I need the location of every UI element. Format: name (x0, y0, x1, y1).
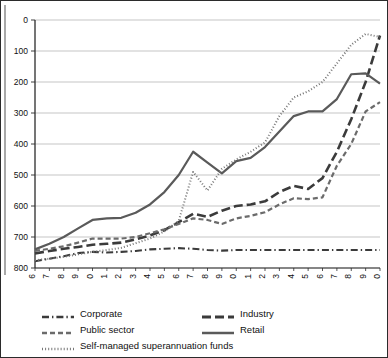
ytick-label-500: 300 (14, 108, 28, 118)
xtick-label-1997: 1997 (41, 274, 51, 279)
xtick-label-2000: 2000 (85, 274, 95, 279)
xtick-label-2013: 2013 (271, 274, 281, 279)
legend-label-retail: Retail (240, 324, 264, 335)
ytick-label-400: 400 (14, 139, 28, 149)
plot-area: 8007006005004003002001000199619971998199… (1, 1, 388, 279)
series-line-public-sector (35, 102, 380, 251)
xtick-label-1998: 1998 (56, 274, 66, 279)
legend-label-industry: Industry (240, 308, 274, 319)
legend-item-corporate[interactable]: Corporate (41, 305, 201, 321)
ytick-label-0: 800 (14, 263, 28, 273)
ytick-label-300: 500 (14, 170, 28, 180)
xtick-label-2011: 2011 (243, 274, 253, 279)
xtick-label-2008: 2008 (200, 274, 210, 279)
legend-item-retail[interactable]: Retail (201, 321, 371, 337)
xtick-label-1996: 1996 (27, 274, 37, 279)
legend-row-2: Public sector Retail (1, 321, 388, 337)
dotted-line-icon (41, 340, 75, 350)
legend-row-3: Self-managed superannuation funds (1, 337, 388, 353)
ytick-label-200: 600 (14, 201, 28, 211)
xtick-label-2017: 2017 (329, 274, 339, 279)
ytick-label-600: 200 (14, 77, 28, 87)
series-line-self-managed-superannuation-funds (35, 34, 380, 260)
legend-label-smsf: Self-managed superannuation funds (80, 340, 233, 351)
legend-row-1: Corporate Industry (1, 305, 388, 321)
series-line-retail (35, 73, 380, 249)
legend-item-industry[interactable]: Industry (201, 305, 371, 321)
series-line-corporate (35, 248, 380, 261)
xtick-label-2009: 2009 (214, 274, 224, 279)
xtick-label-2003: 2003 (128, 274, 138, 279)
xtick-label-2004: 2004 (142, 274, 152, 279)
chart-legend: Corporate Industry Public sector Retail (1, 301, 388, 358)
dash-dot-line-icon (41, 308, 75, 318)
xtick-label-2007: 2007 (185, 274, 195, 279)
xtick-label-2012: 2012 (257, 274, 267, 279)
xtick-label-2015: 2015 (300, 274, 310, 279)
legend-item-smsf[interactable]: Self-managed superannuation funds (41, 337, 371, 353)
long-dash-line-icon (201, 308, 235, 318)
solid-line-icon (201, 324, 235, 334)
ytick-label-700: 100 (14, 46, 28, 56)
xtick-label-2018: 2018 (343, 274, 353, 279)
xtick-label-1999: 1999 (70, 274, 80, 279)
xtick-label-2016: 2016 (315, 274, 325, 279)
xtick-label-2006: 2006 (171, 274, 181, 279)
xtick-label-2010: 2010 (228, 274, 238, 279)
legend-item-public-sector[interactable]: Public sector (41, 321, 201, 337)
line-chart-svg: 8007006005004003002001000199619971998199… (1, 1, 388, 279)
xtick-label-2020: 2020 (372, 274, 382, 279)
xtick-label-2014: 2014 (286, 274, 296, 279)
xtick-label-2005: 2005 (156, 274, 166, 279)
xtick-label-2002: 2002 (113, 274, 123, 279)
ytick-label-800: 0 (23, 15, 28, 25)
xtick-label-2001: 2001 (99, 274, 109, 279)
legend-grid: Corporate Industry Public sector Retail (1, 301, 388, 353)
ytick-label-100: 700 (14, 232, 28, 242)
legend-label-corporate: Corporate (80, 308, 122, 319)
xtick-label-2019: 2019 (358, 274, 368, 279)
medium-dash-line-icon (41, 324, 75, 334)
legend-label-public-sector: Public sector (80, 324, 134, 335)
chart-figure: 8007006005004003002001000199619971998199… (0, 0, 388, 358)
